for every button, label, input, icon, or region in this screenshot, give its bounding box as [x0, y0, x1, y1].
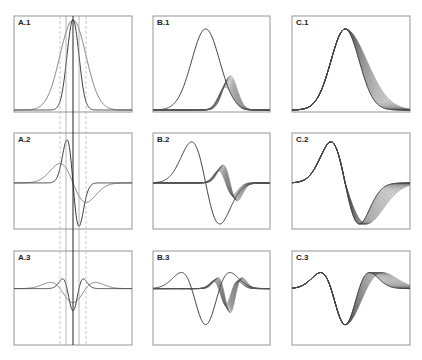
wavelet-figure: A.1 B.1 C.1 A.2 B.2 C.2 A.3 B.3 C.3: [0, 0, 422, 360]
panel-frame: [292, 251, 410, 345]
family-curve: [292, 142, 410, 224]
panel-frame: [292, 133, 410, 229]
family-curve: [153, 78, 270, 110]
family-curve: [153, 281, 270, 305]
panel-frame: [153, 133, 270, 229]
family-curve: [292, 142, 410, 224]
panel-b1: [153, 16, 270, 112]
family-curve: [153, 80, 270, 110]
family-curve: [292, 29, 410, 110]
family-curve: [292, 29, 410, 110]
family-curve: [292, 29, 410, 110]
panel-b2: [153, 133, 270, 229]
panel-label-c3: C.3: [296, 253, 309, 262]
reference-curve: [292, 273, 410, 325]
family-curve: [292, 142, 410, 224]
family-curve: [153, 82, 270, 110]
family-curve: [292, 142, 410, 224]
family-curve: [292, 29, 410, 110]
family-curve: [292, 29, 410, 110]
panel-c2: [292, 133, 410, 229]
panel-label-c1: C.1: [296, 18, 309, 27]
curve-family: [153, 165, 270, 201]
panel-frame: [292, 16, 410, 112]
family-curve: [153, 81, 270, 110]
panel-label-a2: A.2: [18, 135, 31, 144]
family-curve: [292, 29, 410, 110]
family-curve: [153, 77, 270, 110]
panel-frame: [153, 16, 270, 112]
family-curve: [153, 79, 270, 110]
family-curve: [153, 279, 270, 311]
family-curve: [292, 142, 410, 224]
panel-label-b2: B.2: [157, 135, 170, 144]
panel-b3: [153, 251, 270, 345]
curve-family: [292, 142, 410, 224]
panel-labels: A.1 B.1 C.1 A.2 B.2 C.2 A.3 B.3 C.3: [18, 18, 309, 262]
family-curve: [292, 142, 410, 224]
panel-c1: [292, 16, 410, 112]
family-curve: [153, 76, 270, 110]
guide-lines: [60, 16, 86, 345]
curve-family: [153, 278, 270, 313]
family-curve: [292, 29, 410, 110]
reference-curve: [292, 29, 410, 110]
family-curve: [292, 142, 410, 224]
panel-c3: [292, 251, 410, 345]
family-curve: [292, 142, 410, 224]
reference-curve: [153, 273, 270, 325]
panel-frame: [153, 251, 270, 345]
family-curve: [292, 142, 410, 224]
family-curve: [292, 29, 410, 110]
family-curve: [292, 29, 410, 110]
panel-label-a1: A.1: [18, 18, 31, 27]
family-curve: [292, 29, 410, 110]
family-curve: [153, 79, 270, 111]
family-curve: [292, 142, 410, 224]
curve-family: [153, 76, 270, 110]
family-curve: [292, 142, 410, 224]
reference-curve: [292, 142, 410, 224]
family-curve: [153, 281, 270, 304]
family-curve: [292, 142, 410, 224]
family-curve: [292, 29, 410, 110]
family-curve: [292, 142, 410, 224]
family-curve: [292, 29, 410, 110]
panel-label-b1: B.1: [157, 18, 170, 27]
panel-label-a3: A.3: [18, 253, 31, 262]
family-curve: [292, 142, 410, 224]
panel-label-b3: B.3: [157, 253, 170, 262]
panel-label-c2: C.2: [296, 135, 309, 144]
family-curve: [292, 29, 410, 110]
reference-curve: [153, 29, 270, 110]
curve-family: [292, 29, 410, 110]
family-curve: [292, 29, 410, 110]
